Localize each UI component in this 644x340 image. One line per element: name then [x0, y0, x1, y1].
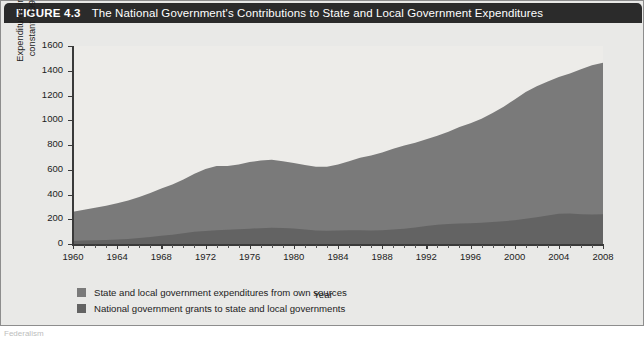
legend-item: State and local government expenditures …: [77, 284, 537, 300]
x-tick-label: 1976: [239, 251, 260, 262]
legend-label: State and local government expenditures …: [94, 287, 347, 298]
x-tick-minor: [537, 245, 538, 248]
x-tick-mark: [515, 245, 516, 249]
legend-swatch: [77, 304, 86, 313]
y-tick-mark: [68, 219, 73, 220]
x-tick-minor: [448, 245, 449, 248]
x-tick-minor: [95, 245, 96, 248]
x-tick-mark: [250, 245, 251, 249]
x-tick-mark: [161, 245, 162, 249]
x-tick-minor: [360, 245, 361, 248]
figure-header-bar: FIGURE 4.3 The National Government's Con…: [4, 3, 642, 23]
x-tick-mark: [603, 245, 604, 249]
x-tick-minor: [239, 245, 240, 248]
x-tick-mark: [206, 245, 207, 249]
x-tick-minor: [217, 245, 218, 248]
x-tick-mark: [117, 245, 118, 249]
figure-container: FIGURE 4.3 The National Government's Con…: [0, 0, 644, 326]
x-tick-mark: [382, 245, 383, 249]
x-tick-label: 1960: [62, 251, 83, 262]
x-tick-minor: [459, 245, 460, 248]
x-tick-minor: [194, 245, 195, 248]
y-tick-label: 1400: [42, 64, 63, 75]
x-tick-minor: [548, 245, 549, 248]
x-tick-minor: [349, 245, 350, 248]
legend-item: National government grants to state and …: [77, 300, 537, 316]
page-undertext: Federalism: [4, 329, 44, 338]
x-tick-minor: [150, 245, 151, 248]
figure-title: The National Government's Contributions …: [92, 7, 543, 19]
x-tick-minor: [371, 245, 372, 248]
x-tick-minor: [106, 245, 107, 248]
x-tick-minor: [393, 245, 394, 248]
x-tick-label: 1984: [327, 251, 348, 262]
x-tick-label: 1992: [416, 251, 437, 262]
x-tick-minor: [404, 245, 405, 248]
y-tick-label: 1600: [42, 39, 63, 50]
x-tick-minor: [228, 245, 229, 248]
y-tick-label: 200: [47, 212, 63, 223]
x-tick-minor: [581, 245, 582, 248]
x-tick-minor: [139, 245, 140, 248]
x-tick-minor: [415, 245, 416, 248]
y-tick-label: 1200: [42, 89, 63, 100]
x-tick-minor: [84, 245, 85, 248]
x-tick-minor: [570, 245, 571, 248]
y-tick-mark: [68, 145, 73, 146]
x-tick-minor: [305, 245, 306, 248]
y-tick-label: 600: [47, 163, 63, 174]
chart-plot-area: [73, 46, 603, 244]
y-tick-label: 1000: [42, 113, 63, 124]
chart-legend: State and local government expenditures …: [77, 284, 537, 316]
x-tick-minor: [172, 245, 173, 248]
x-tick-minor: [283, 245, 284, 248]
x-tick-label: 1996: [460, 251, 481, 262]
x-tick-label: 2008: [592, 251, 613, 262]
x-tick-mark: [471, 245, 472, 249]
y-tick-mark: [68, 71, 73, 72]
x-tick-minor: [316, 245, 317, 248]
x-tick-label: 1972: [195, 251, 216, 262]
x-tick-minor: [437, 245, 438, 248]
x-tick-label: 1988: [372, 251, 393, 262]
y-tick-label: 800: [47, 138, 63, 149]
x-tick-mark: [294, 245, 295, 249]
x-tick-label: 1964: [107, 251, 128, 262]
x-tick-label: 2004: [548, 251, 569, 262]
y-tick-mark: [68, 170, 73, 171]
x-tick-mark: [338, 245, 339, 249]
y-axis-label: Expenditures in billions of constant (19…: [14, 0, 38, 79]
x-tick-minor: [327, 245, 328, 248]
y-tick-mark: [68, 46, 73, 47]
y-tick-mark: [68, 120, 73, 121]
legend-swatch: [77, 288, 86, 297]
x-tick-label: 2000: [504, 251, 525, 262]
legend-label: National government grants to state and …: [94, 303, 345, 314]
area-own-sources: [73, 63, 603, 244]
x-tick-mark: [73, 245, 74, 249]
x-tick-minor: [526, 245, 527, 248]
x-tick-minor: [261, 245, 262, 248]
y-tick-label: 0: [58, 237, 63, 248]
x-tick-minor: [272, 245, 273, 248]
x-tick-mark: [559, 245, 560, 249]
x-tick-label: 1980: [283, 251, 304, 262]
x-tick-minor: [504, 245, 505, 248]
stacked-area-chart: [73, 46, 603, 244]
x-tick-minor: [493, 245, 494, 248]
chart-plot-wrapper: 02004006008001000120014001600 1960196419…: [1, 27, 644, 282]
x-tick-mark: [426, 245, 427, 249]
x-tick-label: 1968: [151, 251, 172, 262]
y-tick-mark: [68, 96, 73, 97]
x-tick-minor: [183, 245, 184, 248]
x-tick-minor: [128, 245, 129, 248]
y-tick-mark: [68, 195, 73, 196]
x-tick-minor: [482, 245, 483, 248]
y-tick-label: 400: [47, 188, 63, 199]
x-tick-minor: [592, 245, 593, 248]
